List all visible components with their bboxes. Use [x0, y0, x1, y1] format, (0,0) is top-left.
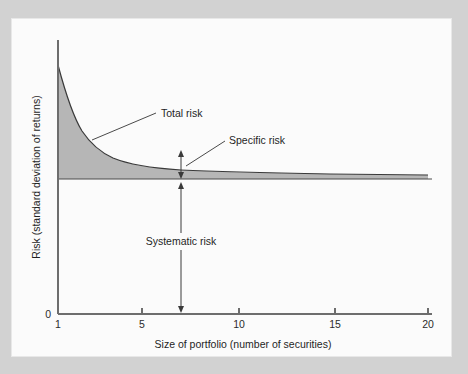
total-risk-leader-line [92, 113, 156, 140]
specific-risk-label: Specific risk [229, 134, 286, 146]
total-risk-label: Total risk [161, 107, 203, 119]
systematic-risk-label: Systematic risk [146, 235, 217, 247]
x-tick-label-15: 15 [329, 318, 341, 330]
systematic-risk-arrow-head-down [178, 306, 184, 313]
x-tick-label-5: 5 [139, 318, 145, 330]
systematic-risk-arrow-head-up [178, 182, 184, 189]
risk-diversification-chart: 1 5 10 15 20 0 Size of portfolio (number… [0, 0, 468, 374]
x-tick-label-1: 1 [55, 318, 61, 330]
specific-risk-leader-line [186, 141, 225, 166]
y-axis-title: Risk (standard deviation of returns) [30, 95, 42, 258]
y-tick-label-0: 0 [45, 308, 51, 320]
total-risk-area [58, 65, 428, 179]
figure-container: 1 5 10 15 20 0 Size of portfolio (number… [0, 0, 468, 374]
x-tick-label-10: 10 [233, 318, 245, 330]
specific-risk-arrow-head-up [178, 150, 184, 157]
total-risk-curve [58, 65, 428, 175]
x-axis-title: Size of portfolio (number of securities) [155, 338, 332, 350]
x-tick-label-20: 20 [422, 318, 434, 330]
